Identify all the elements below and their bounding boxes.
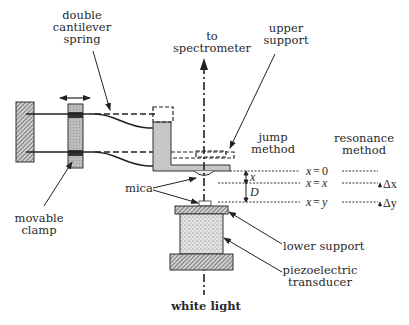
label-double-cantilever-spring: double cantilever spring — [53, 8, 112, 46]
leader-mica-upper — [153, 178, 196, 188]
leader-lower-support — [229, 212, 282, 244]
svg-text:method: method — [342, 143, 387, 157]
jump-equation-3: x = y — [305, 195, 328, 209]
label-piezoelectric-transducer: piezoelectric transducer — [283, 263, 358, 289]
leader-movable-clamp — [44, 162, 72, 206]
gap-x-label: x — [249, 170, 256, 184]
svg-text:x: x — [305, 195, 312, 209]
lower-support — [175, 206, 228, 214]
svg-text:x: x — [305, 176, 312, 190]
reference-lines — [218, 171, 378, 202]
mica-lower-pad — [199, 201, 211, 206]
svg-text:x: x — [321, 176, 328, 190]
fixed-wall-block — [16, 102, 34, 162]
upper-support-bracket — [153, 122, 230, 171]
label-white-light: white light — [170, 299, 241, 313]
gap-d-label: D — [249, 185, 259, 199]
label-jump-method: jump method — [251, 130, 296, 156]
cantilever-springs-rest — [95, 114, 158, 152]
svg-text:support: support — [263, 33, 308, 47]
leader-double-cantilever — [93, 51, 110, 110]
delta-y-label: Δy — [383, 196, 397, 210]
jump-equation-2: x = x — [305, 176, 328, 190]
label-resonance-method: resonance method — [334, 131, 394, 157]
svg-text:y: y — [321, 195, 328, 209]
base-block — [170, 254, 233, 270]
svg-text:transducer: transducer — [288, 275, 352, 289]
cantilever-springs — [26, 114, 154, 166]
piezoelectric-transducer — [180, 214, 223, 254]
to-spectrometer-arrow — [200, 58, 208, 70]
resonance-arrows — [378, 182, 382, 207]
svg-text:clamp: clamp — [21, 223, 56, 237]
delta-x-label: Δx — [383, 177, 397, 191]
svg-text:method: method — [251, 142, 296, 156]
svg-text:=: = — [313, 195, 320, 209]
svg-text:=: = — [313, 176, 320, 190]
dimension-arrows — [244, 171, 248, 202]
leader-mica-lower — [153, 190, 198, 203]
label-to-spectrometer: to spectrometer — [173, 29, 252, 55]
label-lower-support: lower support — [283, 239, 365, 253]
sfa-apparatus-diagram: x D x = 0 x = x x = y Δx Δy double canti… — [0, 0, 409, 325]
label-upper-support: upper support — [263, 21, 308, 47]
label-movable-clamp: movable clamp — [14, 211, 63, 237]
svg-text:spring: spring — [63, 32, 101, 46]
label-mica: mica — [125, 181, 153, 195]
svg-text:spectrometer: spectrometer — [173, 41, 252, 55]
